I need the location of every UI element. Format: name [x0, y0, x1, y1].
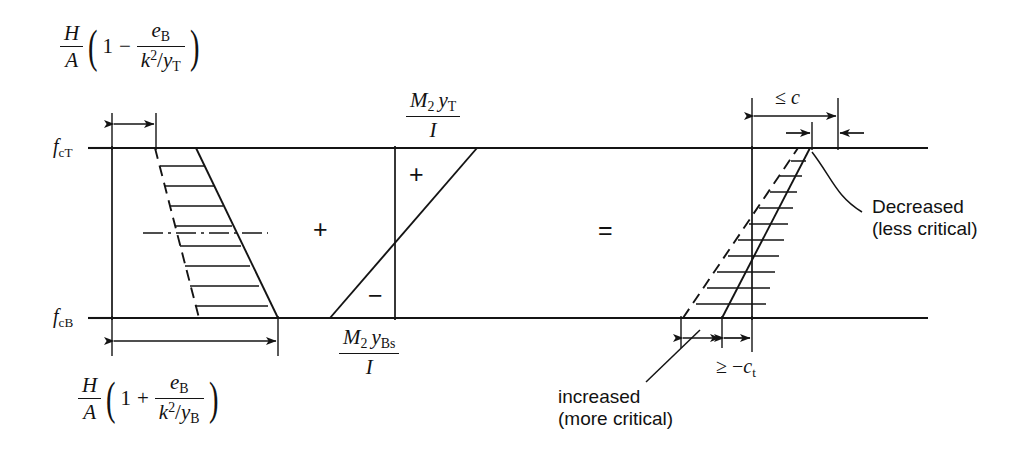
label-f-cB-sub: cB: [59, 315, 74, 330]
formula-bottom-middle-y: y: [371, 325, 380, 349]
paren-close-top-left: ): [190, 20, 200, 74]
sign-middle-upper-plus: +: [409, 160, 424, 190]
figure-canvas: H A ( 1 − eB k2/yT ) H A ( 1: [0, 0, 1023, 467]
formula-top-middle-I: I: [406, 117, 460, 143]
formula-top-left-operator: −: [115, 34, 135, 59]
formula-bottom-left-one: 1: [121, 386, 132, 411]
annotation-decreased-line2: (less critical): [872, 218, 978, 240]
annotation-increased-line1: increased: [558, 386, 673, 408]
annotation-decreased-line1: Decreased: [872, 196, 978, 218]
formula-top-left: H A ( 1 − eB k2/yT ): [60, 18, 202, 76]
operator-equals-between-diagrams: =: [598, 216, 613, 246]
annotation-increased: increased (more critical): [558, 386, 673, 431]
right-dashed-profile: [683, 148, 798, 318]
formula-top-left-H: H: [60, 21, 83, 48]
formula-top-left-e: e: [152, 18, 161, 42]
right-hatch-group: [696, 161, 806, 304]
label-f-cB: fcB: [53, 305, 73, 330]
label-f-cT: fcT: [53, 135, 72, 160]
formula-top-left-e-sub: B: [161, 29, 170, 44]
formula-top-middle-y: y: [438, 88, 447, 112]
formula-bottom-left-y-sub: B: [190, 411, 199, 426]
dim-label-ge-ct-minus: −: [732, 355, 743, 377]
operator-plus-between-diagrams: +: [313, 215, 328, 245]
formula-bottom-middle-M-sub: 2: [361, 336, 368, 351]
dim-label-le-c: ≤ c: [775, 86, 800, 110]
sign-middle-lower-minus: −: [368, 281, 383, 311]
formula-top-middle-y-sub: T: [448, 99, 456, 114]
formula-bottom-left-e: e: [170, 370, 179, 394]
formula-bottom-left-H: H: [78, 373, 101, 400]
formula-bottom-left-operator: +: [133, 386, 153, 411]
formula-bottom-left-y: y: [181, 400, 190, 424]
formula-bottom-left: H A ( 1 + eB k2/yB ): [78, 370, 221, 428]
formula-top-left-A: A: [60, 47, 83, 73]
formula-top-left-k: k: [141, 48, 150, 72]
formula-bottom-middle: M2yBs I: [339, 325, 399, 380]
dim-label-ge-ct-sub: t: [752, 365, 756, 380]
formula-bottom-middle-I: I: [339, 354, 399, 380]
formula-bottom-left-e-sub: B: [179, 381, 188, 396]
dim-label-le-c-symbol: ≤: [775, 86, 786, 108]
formula-top-middle-M-sub: 2: [428, 99, 435, 114]
formula-bottom-left-A: A: [78, 399, 101, 425]
dim-label-ge-ct: ≥ −ct: [716, 355, 756, 380]
formula-bottom-middle-y-sub: Bs: [381, 336, 396, 351]
dim-label-ge-ct-symbol: ≥: [716, 355, 727, 377]
dim-label-ge-ct-base: c: [743, 355, 752, 377]
formula-bottom-middle-M: M: [343, 325, 361, 349]
leader-decreased: [812, 152, 862, 212]
label-f-cT-sub: cT: [59, 145, 73, 160]
formula-top-middle: M2yT I: [406, 88, 460, 143]
middle-diagonal-profile: [330, 148, 477, 318]
formula-top-left-y: y: [163, 48, 172, 72]
leader-increased: [646, 330, 700, 382]
formula-top-middle-M: M: [410, 88, 428, 112]
formula-top-left-one: 1: [103, 34, 114, 59]
paren-open-bottom-left: (: [106, 372, 116, 426]
paren-close-bottom-left: ): [208, 372, 218, 426]
formula-top-left-y-sub: T: [172, 59, 180, 74]
annotation-increased-line2: (more critical): [558, 408, 673, 430]
formula-bottom-left-k: k: [159, 400, 168, 424]
right-solid-profile: [722, 148, 810, 318]
annotation-decreased: Decreased (less critical): [872, 196, 978, 241]
paren-open-top-left: (: [88, 20, 98, 74]
dim-label-le-c-value: c: [791, 86, 800, 108]
